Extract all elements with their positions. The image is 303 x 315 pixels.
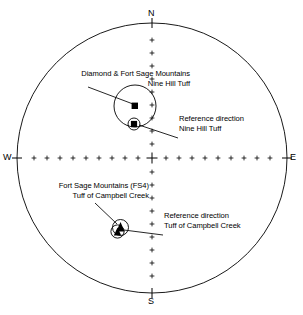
stereonet-figure bbox=[0, 0, 303, 315]
leader-line-campbell-creek-reference bbox=[124, 230, 163, 235]
leader-line-campbell-creek bbox=[95, 203, 117, 224]
leader-line-nine-hill bbox=[88, 87, 133, 104]
cardinal-label-east: E bbox=[290, 152, 296, 162]
annotation-campbell-creek: Fort Sage Mountains (FS4) Tuff of Campbe… bbox=[34, 181, 149, 200]
center-cross bbox=[147, 153, 158, 164]
nine-hill-reference-marker bbox=[131, 121, 137, 127]
annotation-nine-hill-reference-line2: Nine Hill Tuff bbox=[179, 124, 244, 134]
cardinal-label-south: S bbox=[148, 296, 154, 306]
annotation-campbell-creek-reference-line2: Tuff of Campbell Creek bbox=[164, 221, 241, 231]
annotation-nine-hill-line1: Diamond & Fort Sage Mountains bbox=[64, 69, 190, 79]
annotation-campbell-creek-reference: Reference direction Tuff of Campbell Cre… bbox=[164, 211, 241, 230]
annotation-campbell-creek-line2: Tuff of Campbell Creek bbox=[34, 191, 149, 201]
annotation-campbell-creek-line1: Fort Sage Mountains (FS4) bbox=[34, 181, 149, 191]
annotation-nine-hill-reference: Reference direction Nine Hill Tuff bbox=[179, 114, 244, 133]
annotation-campbell-creek-reference-line1: Reference direction bbox=[164, 211, 241, 221]
leader-line-nine-hill-reference bbox=[139, 125, 178, 138]
stereonet-canvas bbox=[0, 0, 303, 315]
cardinal-label-north: N bbox=[148, 8, 155, 18]
annotation-nine-hill: Diamond & Fort Sage Mountains Nine Hill … bbox=[64, 69, 190, 88]
annotation-nine-hill-line2: Nine Hill Tuff bbox=[64, 79, 190, 89]
cardinal-label-west: W bbox=[3, 152, 12, 162]
annotation-nine-hill-reference-line1: Reference direction bbox=[179, 114, 244, 124]
